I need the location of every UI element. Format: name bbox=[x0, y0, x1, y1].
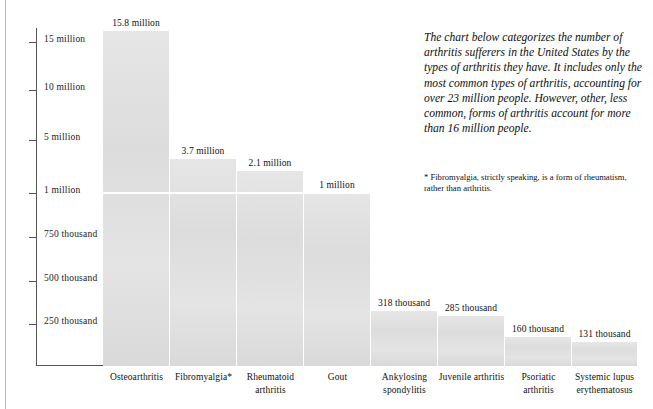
bar-systemic-lupus-erythematosus: 131 thousand bbox=[572, 342, 637, 366]
category-label-rheumatoid-arthritis: Rheumatoid arthritis bbox=[237, 371, 304, 396]
bar-value-label: 318 thousand bbox=[378, 298, 430, 308]
category-label-juvenile-arthritis: Juvenile arthritis bbox=[438, 371, 505, 384]
bar-osteoarthritis: 15.8 million bbox=[103, 31, 170, 366]
bar-value-label: 2.1 million bbox=[249, 158, 292, 168]
bar-value-label: 1 million bbox=[319, 180, 354, 190]
category-label-gout: Gout bbox=[304, 371, 371, 384]
bar-fibromyalgia: 3.7 million bbox=[170, 159, 237, 366]
bar-value-label: 131 thousand bbox=[578, 329, 630, 339]
category-label-fibromyalgia: Fibromyalgia* bbox=[170, 371, 237, 384]
category-label-osteoarthritis: Osteoarthritis bbox=[103, 371, 170, 384]
bar-value-label: 15.8 million bbox=[112, 18, 160, 28]
bar-value-label: 3.7 million bbox=[182, 146, 225, 156]
bar-juvenile-arthritis: 285 thousand bbox=[438, 316, 505, 366]
bar-value-label: 160 thousand bbox=[512, 324, 564, 334]
category-label-ankylosing-spondylitis: Ankylosing spondylitis bbox=[371, 371, 438, 396]
bar-gout: 1 million bbox=[304, 193, 371, 366]
bar-ankylosing-spondylitis: 318 thousand bbox=[371, 311, 438, 366]
bar-value-label: 285 thousand bbox=[445, 303, 497, 313]
category-label-systemic-lupus-erythematosus: Systemic lupus erythematosus bbox=[570, 371, 639, 396]
category-label-psoriatic-arthritis: Psoriatic arthritis bbox=[505, 371, 572, 396]
bar-rheumatoid-arthritis: 2.1 million bbox=[237, 171, 304, 366]
chart-footnote: * Fibromyalgia, strictly speaking, is a … bbox=[424, 172, 636, 195]
bar-psoriatic-arthritis: 160 thousand bbox=[505, 337, 572, 366]
chart-caption: The chart below categorizes the number o… bbox=[424, 30, 642, 136]
